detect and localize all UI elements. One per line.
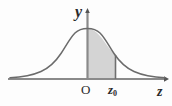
normal-distribution-figure: y z O z0 (0, 0, 172, 106)
y-axis-label: y (75, 4, 82, 20)
z0-subscript: 0 (113, 89, 117, 98)
y-axis-arrowhead-icon (85, 8, 90, 13)
origin-tick-label: O (81, 83, 90, 96)
shaded-area-region (88, 29, 116, 80)
z0-tick-label: z0 (108, 83, 117, 96)
x-axis-label: z (157, 85, 162, 99)
